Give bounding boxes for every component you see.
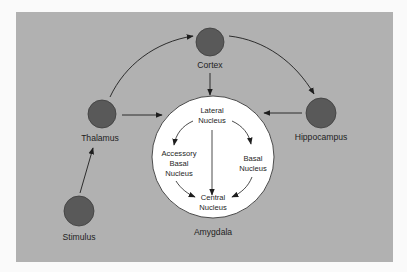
amygdala-pathway-diagram: Cortex Thalamus Hippocampus Stimulus Amy… [0, 0, 407, 272]
thalamus-label: Thalamus [81, 133, 119, 143]
hippocampus-node [306, 98, 336, 128]
stimulus-node [64, 196, 94, 226]
accessory-basal-nucleus-line2: Basal [170, 159, 189, 168]
basal-nucleus-line1: Basal [244, 154, 263, 163]
central-nucleus-line2: Nucleus [199, 203, 227, 212]
hippocampus-label: Hippocampus [295, 132, 348, 142]
cortex-node [196, 28, 224, 56]
lateral-nucleus-line2: Nucleus [198, 116, 226, 125]
cortex-label: Cortex [197, 60, 223, 70]
accessory-basal-nucleus-line1: Accessory [161, 149, 196, 158]
basal-nucleus-line2: Nucleus [239, 164, 267, 173]
lateral-nucleus-line1: Lateral [200, 106, 224, 115]
stimulus-label: Stimulus [63, 232, 96, 242]
thalamus-node [88, 100, 116, 128]
amygdala-label: Amygdala [194, 227, 232, 237]
accessory-basal-nucleus-line3: Nucleus [165, 169, 193, 178]
central-nucleus-line1: Central [201, 193, 226, 202]
